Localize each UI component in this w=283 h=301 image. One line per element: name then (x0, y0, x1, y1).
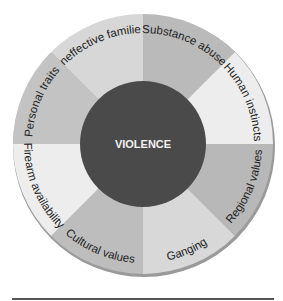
center-label: VIOLENCE (115, 138, 171, 150)
bottom-rule (12, 298, 274, 300)
violence-factor-wheel: VIOLENCE Substance abuseHuman instinctsR… (0, 0, 283, 301)
